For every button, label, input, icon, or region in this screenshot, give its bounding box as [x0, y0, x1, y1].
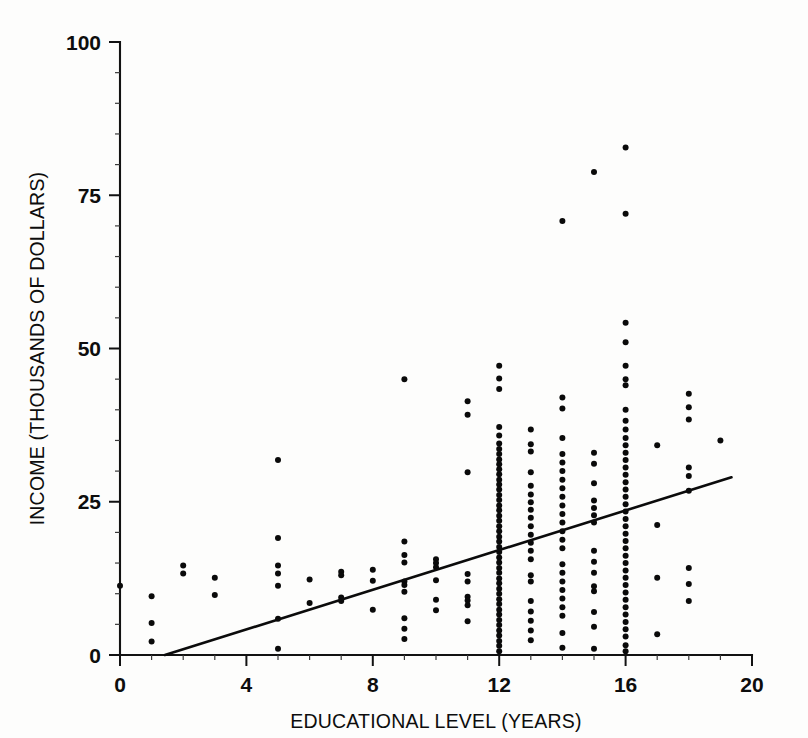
y-tick-label: 50: [78, 337, 101, 360]
data-point: [591, 570, 597, 576]
data-point: [591, 548, 597, 554]
data-point: [496, 528, 502, 534]
data-point: [559, 435, 565, 441]
data-point: [149, 620, 155, 626]
data-point: [591, 588, 597, 594]
x-tick-label: 8: [367, 673, 379, 696]
data-point: [559, 630, 565, 636]
data-point: [528, 469, 534, 475]
data-point: [686, 417, 692, 423]
data-point: [528, 637, 534, 643]
data-point: [559, 570, 565, 576]
data-point: [401, 636, 407, 642]
data-point: [591, 480, 597, 486]
data-point: [623, 486, 629, 492]
data-point: [559, 451, 565, 457]
data-point: [591, 169, 597, 175]
regression-line: [165, 477, 732, 655]
x-tick-label: 16: [614, 673, 637, 696]
data-point: [623, 494, 629, 500]
data-point: [401, 559, 407, 565]
data-point: [401, 582, 407, 588]
data-point: [559, 460, 565, 466]
y-tick-label: 75: [78, 184, 102, 207]
data-point: [465, 578, 471, 584]
data-point: [623, 320, 629, 326]
data-point: [465, 602, 471, 608]
data-point: [686, 473, 692, 479]
data-point: [623, 648, 629, 654]
data-point: [591, 559, 597, 565]
data-point: [496, 486, 502, 492]
data-point: [401, 376, 407, 382]
x-tick-label: 20: [740, 673, 763, 696]
data-point: [496, 643, 502, 649]
data-point: [623, 582, 629, 588]
data-point: [623, 560, 629, 566]
data-point: [654, 631, 660, 637]
data-point: [559, 485, 565, 491]
data-point: [559, 613, 565, 619]
data-point: [623, 339, 629, 345]
y-axis-title: INCOME (THOUSANDS OF DOLLARS): [26, 172, 48, 526]
data-point: [559, 578, 565, 584]
data-point: [686, 391, 692, 397]
data-point: [401, 615, 407, 621]
axis-labels-group: 0255075100048121620EDUCATIONAL LEVEL (YE…: [26, 31, 764, 733]
data-point: [623, 426, 629, 432]
data-point: [117, 583, 123, 589]
data-point: [401, 626, 407, 632]
data-point: [496, 424, 502, 430]
data-point: [623, 626, 629, 632]
data-point: [623, 567, 629, 573]
data-point: [686, 404, 692, 410]
data-point: [528, 578, 534, 584]
data-point: [212, 592, 218, 598]
data-point: [623, 523, 629, 529]
data-point: [496, 580, 502, 586]
data-point: [528, 532, 534, 538]
data-point: [528, 499, 534, 505]
data-point: [465, 398, 471, 404]
data-point: [275, 583, 281, 589]
x-tick-label: 4: [241, 673, 253, 696]
data-point: [559, 468, 565, 474]
data-point: [623, 450, 629, 456]
data-point: [623, 589, 629, 595]
plot-canvas: 0255075100048121620EDUCATIONAL LEVEL (YE…: [0, 0, 808, 738]
data-point: [528, 627, 534, 633]
data-point: [528, 448, 534, 454]
data-point: [212, 575, 218, 581]
data-point: [559, 477, 565, 483]
data-point: [528, 548, 534, 554]
data-point: [591, 450, 597, 456]
data-point: [370, 578, 376, 584]
data-point: [654, 522, 660, 528]
data-point: [559, 494, 565, 500]
data-point: [275, 646, 281, 652]
data-point: [496, 441, 502, 447]
data-point: [559, 545, 565, 551]
data-point: [623, 144, 629, 150]
data-point: [623, 376, 629, 382]
data-point: [623, 604, 629, 610]
data-point: [275, 457, 281, 463]
data-point: [623, 363, 629, 369]
data-point: [559, 395, 565, 401]
data-point: [528, 523, 534, 529]
data-point: [591, 505, 597, 511]
data-point: [528, 598, 534, 604]
data-point: [433, 607, 439, 613]
data-point: [559, 537, 565, 543]
data-point: [496, 471, 502, 477]
data-point: [623, 211, 629, 217]
data-point: [623, 531, 629, 537]
data-point: [433, 597, 439, 603]
data-point: [528, 515, 534, 521]
data-point: [591, 461, 597, 467]
regression-line-group: [165, 477, 732, 655]
data-point: [275, 535, 281, 541]
data-point: [496, 632, 502, 638]
data-point: [496, 591, 502, 597]
data-point: [180, 563, 186, 569]
